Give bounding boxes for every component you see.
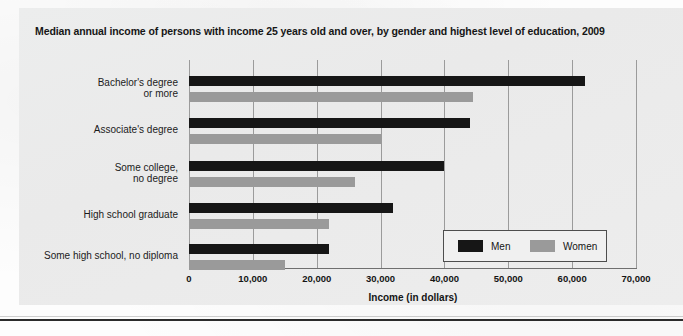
- category-label-line: Bachelor's degree: [8, 77, 178, 89]
- x-tick-label: 60,000: [558, 273, 587, 284]
- bar-men: [189, 118, 470, 128]
- bar-men: [189, 161, 444, 171]
- bar-women: [189, 134, 381, 144]
- page-horizontal-rule: [0, 319, 683, 321]
- x-tick-label: 70,000: [621, 273, 650, 284]
- chart-legend: Men Women: [443, 230, 607, 262]
- category-label-line: or more: [8, 88, 178, 100]
- category-label: Bachelor's degreeor more: [8, 77, 178, 100]
- x-axis-title: Income (in dollars): [369, 292, 458, 303]
- legend-swatch-women-icon: [530, 240, 555, 252]
- x-tick-label: 50,000: [494, 273, 523, 284]
- bar-women: [189, 219, 329, 229]
- x-tick-label: 0: [186, 273, 191, 284]
- bar-women: [189, 260, 285, 270]
- gridline-70000: [636, 60, 637, 268]
- legend-label-men: Men: [491, 241, 510, 252]
- legend-item-women: Women: [530, 240, 597, 252]
- bar-men: [189, 203, 393, 213]
- figure-title: Median annual income of persons with inc…: [35, 25, 605, 37]
- bar-men: [189, 244, 329, 254]
- x-tick-label: 20,000: [302, 273, 331, 284]
- x-tick-label: 10,000: [238, 273, 267, 284]
- category-label: Associate's degree: [8, 124, 178, 136]
- category-label: Some college,no degree: [8, 162, 178, 185]
- legend-label-women: Women: [563, 241, 597, 252]
- category-label-line: High school graduate: [8, 209, 178, 221]
- category-label-line: Some high school, no diploma: [8, 250, 178, 262]
- category-label: High school graduate: [8, 209, 178, 221]
- bar-men: [189, 76, 585, 86]
- figure-panel: Median annual income of persons with inc…: [19, 8, 683, 305]
- category-label: Some high school, no diploma: [8, 250, 178, 262]
- legend-swatch-men-icon: [458, 240, 483, 252]
- legend-item-men: Men: [458, 240, 510, 252]
- category-label-line: Some college,: [8, 162, 178, 174]
- x-tick-label: 40,000: [430, 273, 459, 284]
- category-label-line: no degree: [8, 173, 178, 185]
- bar-women: [189, 177, 355, 187]
- page-rule-soft: [0, 316, 683, 317]
- category-label-line: Associate's degree: [8, 124, 178, 136]
- bar-women: [189, 92, 473, 102]
- x-tick-label: 30,000: [366, 273, 395, 284]
